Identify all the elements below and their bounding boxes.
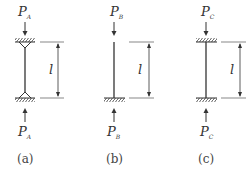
arrowhead-icon [204, 31, 209, 36]
caption-a: (a) [17, 152, 34, 166]
column-a: PA PA l (a) [15, 4, 64, 166]
fixed-support-bottom-c [196, 98, 217, 102]
caption-c: (c) [198, 152, 214, 166]
load-label-top-b: PB [109, 4, 124, 20]
hatch-bottom-a [15, 98, 35, 102]
load-label-top-a: PA [17, 4, 32, 20]
pin-support-bottom-a [19, 92, 31, 98]
length-label-c: l [230, 62, 234, 77]
load-label-bottom-a: PA [17, 124, 32, 140]
arrowhead-icon [112, 31, 117, 36]
column-buckling-diagram: PA PA l (a) PB PB l [0, 0, 248, 170]
length-label-b: l [138, 62, 142, 77]
length-label-a: l [49, 62, 53, 77]
column-c: PC PC l (c) [196, 4, 246, 166]
hatch-top-a [15, 38, 35, 42]
arrowhead-icon [204, 108, 209, 113]
caption-b: (b) [106, 152, 123, 166]
load-label-bottom-b: PB [106, 124, 121, 140]
fixed-support-top-c [196, 38, 217, 42]
column-b: PB PB l (b) [104, 4, 154, 166]
arrowhead-icon [23, 108, 28, 113]
load-label-bottom-c: PC [199, 124, 214, 140]
load-label-top-c: PC [200, 4, 215, 20]
arrowhead-icon [23, 31, 28, 36]
arrowhead-icon [112, 108, 117, 113]
fixed-support-bottom-b [104, 98, 125, 102]
pin-support-top-a [19, 42, 31, 48]
